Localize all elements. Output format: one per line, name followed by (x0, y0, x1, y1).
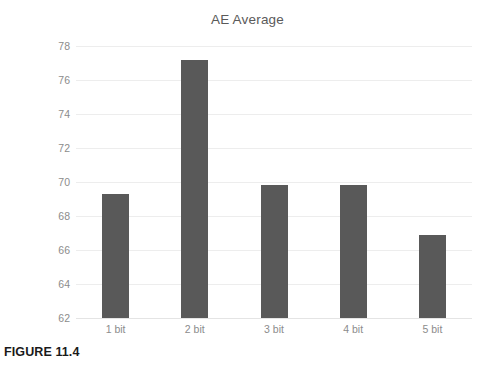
y-axis-tick-label: 64 (44, 279, 70, 290)
x-axis-tick-label: 2 bit (160, 324, 230, 335)
x-axis: 1 bit2 bit3 bit4 bit5 bit (76, 324, 472, 342)
y-axis-tick-label: 68 (44, 211, 70, 222)
x-axis-tick-label: 4 bit (318, 324, 388, 335)
figure-container: AE Average 787674727068666462 1 bit2 bit… (0, 0, 495, 366)
y-axis-tick-label: 74 (44, 109, 70, 120)
bar (181, 60, 208, 318)
y-axis-tick-label: 62 (44, 313, 70, 324)
bar (340, 185, 367, 318)
bar (261, 185, 288, 318)
y-axis: 787674727068666462 (44, 46, 70, 318)
gridline (76, 318, 472, 319)
bar (419, 235, 446, 318)
chart-title: AE Average (0, 12, 495, 27)
figure-caption: FIGURE 11.4 (4, 345, 79, 359)
y-axis-tick-label: 66 (44, 245, 70, 256)
x-axis-tick-label: 3 bit (239, 324, 309, 335)
y-axis-tick-label: 78 (44, 41, 70, 52)
bar-series (76, 46, 472, 318)
x-axis-tick-label: 1 bit (81, 324, 151, 335)
bar (102, 194, 129, 318)
y-axis-tick-label: 76 (44, 75, 70, 86)
y-axis-tick-label: 72 (44, 143, 70, 154)
y-axis-tick-label: 70 (44, 177, 70, 188)
x-axis-tick-label: 5 bit (397, 324, 467, 335)
